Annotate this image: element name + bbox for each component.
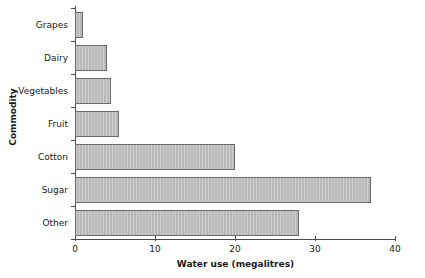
y-axis-title: Commodity	[8, 57, 18, 177]
y-axis-label-cotton: Cotton	[38, 152, 68, 162]
y-axis-label-fruit: Fruit	[48, 119, 68, 129]
x-axis-label-0: 0	[60, 244, 90, 255]
bar-row	[75, 144, 395, 170]
bar-row	[75, 12, 395, 38]
bar-row	[75, 111, 395, 137]
x-axis-label-10: 10	[140, 244, 170, 255]
bar-cotton[interactable]	[75, 144, 235, 170]
x-axis-tick	[315, 236, 316, 241]
bar-vegetables[interactable]	[75, 78, 111, 104]
y-axis-tick	[71, 206, 76, 207]
y-axis-tick	[71, 107, 76, 108]
bar-row	[75, 177, 395, 203]
y-axis-label-grapes: Grapes	[36, 20, 68, 30]
x-axis-tick	[155, 236, 156, 241]
y-axis-tick	[71, 41, 76, 42]
y-axis-label-dairy: Dairy	[44, 53, 68, 63]
bar-other[interactable]	[75, 210, 299, 236]
bar-fruit[interactable]	[75, 111, 119, 137]
x-axis-tick	[75, 236, 76, 241]
plot-area	[75, 8, 395, 239]
y-axis-tick	[71, 140, 76, 141]
bar-sugar[interactable]	[75, 177, 371, 203]
x-axis-title: Water use (megalitres)	[75, 259, 396, 269]
y-axis-tick	[71, 8, 76, 9]
y-axis-label-sugar: Sugar	[42, 185, 68, 195]
bar-dairy[interactable]	[75, 45, 107, 71]
x-axis-tick	[395, 236, 396, 241]
bar-row	[75, 210, 395, 236]
y-axis-tick	[71, 173, 76, 174]
bar-row	[75, 45, 395, 71]
bar-row	[75, 78, 395, 104]
y-axis-label-other: Other	[42, 218, 68, 228]
x-axis-tick	[235, 236, 236, 241]
bar-chart: GrapesDairyVegetablesFruitCottonSugarOth…	[0, 0, 425, 278]
y-axis-label-vegetables: Vegetables	[18, 86, 68, 96]
bar-grapes[interactable]	[75, 12, 83, 38]
x-axis-label-20: 20	[220, 244, 250, 255]
x-axis-label-30: 30	[300, 244, 330, 255]
x-axis-label-40: 40	[380, 244, 410, 255]
y-axis-tick	[71, 74, 76, 75]
